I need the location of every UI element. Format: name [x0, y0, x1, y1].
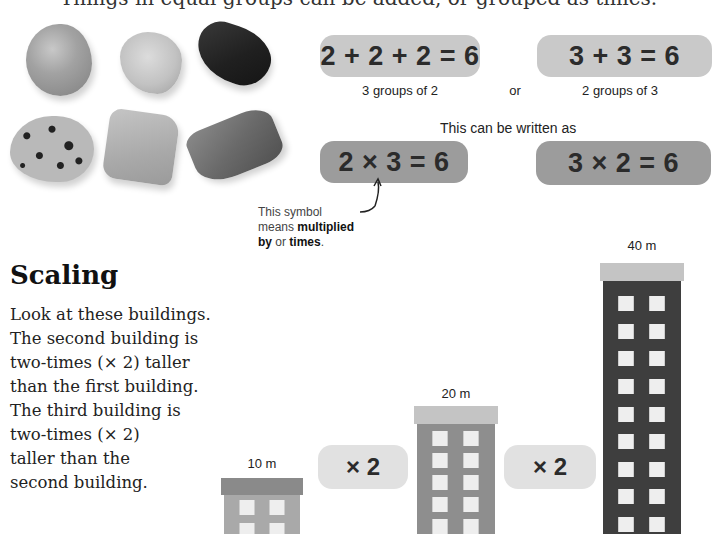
window — [269, 523, 285, 534]
paragraph-line: second building. — [10, 471, 235, 495]
multiply-symbol-note: This symbol means multiplied by or times… — [258, 205, 418, 250]
window — [269, 500, 285, 515]
window — [239, 500, 255, 515]
window — [618, 517, 634, 532]
window — [463, 497, 479, 512]
window — [649, 407, 665, 422]
written-as-label: This can be written as — [440, 120, 576, 136]
note-term-multiplied: multiplied — [297, 220, 354, 234]
connector-or: or — [500, 83, 530, 98]
window — [463, 431, 479, 446]
paragraph-line: Look at these buildings. — [10, 303, 235, 327]
window — [239, 523, 255, 534]
note-line-2-prefix: means — [258, 220, 297, 234]
section-heading-scaling: Scaling — [10, 260, 118, 290]
note-period: . — [321, 235, 324, 249]
building-height-label-40m: 40 m — [600, 238, 684, 253]
window — [618, 379, 634, 394]
window — [649, 517, 665, 532]
paragraph-line: than the first building. — [10, 375, 235, 399]
window — [432, 497, 448, 512]
addition-caption-right: 2 groups of 3 — [540, 83, 700, 98]
multiplication-equation-right: 3 × 2 = 6 — [536, 141, 711, 185]
window — [649, 379, 665, 394]
window — [618, 407, 634, 422]
building-body — [417, 424, 495, 534]
addition-equation-left: 2 + 2 + 2 = 6 — [320, 35, 480, 77]
window — [618, 324, 634, 339]
pale-stone-image — [120, 32, 182, 94]
paragraph-line: taller than the — [10, 447, 235, 471]
window — [649, 351, 665, 366]
spotted-stone-image — [10, 116, 94, 182]
window — [463, 475, 479, 490]
window — [649, 462, 665, 477]
clipped-intro-text: Things in equal groups can be added, or … — [60, 0, 657, 10]
paragraph-line: The second building is — [10, 327, 235, 351]
window — [649, 324, 665, 339]
addition-equation-right: 3 + 3 = 6 — [537, 35, 712, 77]
building-roof — [414, 406, 498, 424]
paragraph-line: two-times (× 2) taller — [10, 351, 235, 375]
multiplier-badge-1: × 2 — [318, 445, 408, 489]
flat-stone-image — [101, 107, 180, 186]
addition-caption-left: 3 groups of 2 — [320, 83, 480, 98]
window — [463, 519, 479, 534]
building-roof — [221, 478, 303, 495]
window — [649, 489, 665, 504]
building-roof — [600, 263, 684, 281]
grey-stone-image — [183, 103, 287, 189]
window — [618, 489, 634, 504]
note-term-by: by — [258, 235, 272, 249]
window — [649, 296, 665, 311]
building-body — [224, 495, 300, 534]
note-term-times: times — [289, 235, 320, 249]
window — [432, 475, 448, 490]
multiplier-badge-2: × 2 — [504, 445, 596, 489]
note-line-1: This symbol — [258, 205, 322, 219]
window — [432, 519, 448, 534]
scaling-paragraph: Look at these buildings. The second buil… — [10, 303, 235, 495]
window — [618, 296, 634, 311]
building-height-label-10m: 10 m — [222, 456, 302, 471]
building-body — [603, 281, 681, 534]
window — [432, 453, 448, 468]
paragraph-line: two-times (× 2) — [10, 423, 235, 447]
black-stone-image — [189, 16, 279, 93]
note-or: or — [272, 235, 289, 249]
orange-stone-image — [26, 24, 92, 96]
window — [618, 434, 634, 449]
window — [618, 462, 634, 477]
paragraph-line: The third building is — [10, 399, 235, 423]
window — [463, 453, 479, 468]
window — [649, 434, 665, 449]
window — [432, 431, 448, 446]
window — [618, 351, 634, 366]
building-height-label-20m: 20 m — [414, 386, 498, 401]
